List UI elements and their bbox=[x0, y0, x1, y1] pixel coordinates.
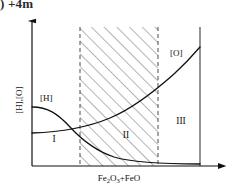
x-axis-label-tail: +FeO bbox=[120, 173, 141, 183]
y-axis-label: [H],[O] bbox=[14, 86, 24, 113]
x-axis-label-lead: Fe bbox=[98, 173, 107, 183]
region-label-three: III bbox=[176, 116, 186, 126]
curve-label-hydrogen: [H] bbox=[40, 93, 53, 103]
region-label-two: II bbox=[123, 130, 129, 140]
x-axis-label: Fe2O3+FeO bbox=[98, 173, 141, 184]
chart-canvas: [H],[O] Fe2O3+FeO [H] [O] I II III bbox=[0, 0, 235, 196]
curve-label-oxygen: [O] bbox=[170, 48, 183, 58]
region-label-one: I bbox=[52, 134, 55, 144]
figure-root: ) +4m [H],[O] bbox=[0, 0, 235, 196]
